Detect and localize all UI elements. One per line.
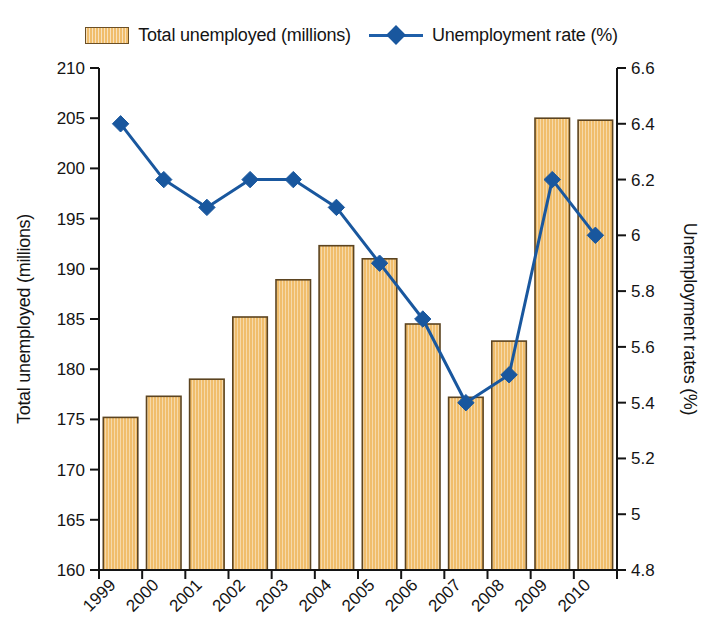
right-tick-label-5.4: 5.4	[631, 394, 655, 413]
left-tick-label-185: 185	[57, 310, 85, 329]
left-tick-label-195: 195	[57, 210, 85, 229]
bar-2003	[276, 280, 311, 570]
right-tick-label-6: 6	[631, 226, 640, 245]
x-tick-label-2005: 2005	[338, 575, 378, 615]
right-tick-label-6.6: 6.6	[631, 59, 655, 78]
left-tick-label-180: 180	[57, 360, 85, 379]
right-tick-label-5.6: 5.6	[631, 338, 655, 357]
right-axis-title: Unemployment rates (%)	[680, 223, 700, 415]
x-tick-label-2009: 2009	[511, 575, 551, 615]
x-tick-label-2000: 2000	[122, 575, 162, 615]
bar-2006	[406, 324, 441, 570]
bar-2002	[233, 317, 267, 570]
bar-2001	[190, 379, 225, 570]
left-tick-label-210: 210	[57, 59, 85, 78]
x-tick-label-2001: 2001	[166, 575, 206, 615]
chart-plot-area: 1601651701751801851901952002052104.855.2…	[0, 0, 703, 625]
x-tick-label-2002: 2002	[209, 575, 249, 615]
left-tick-label-200: 200	[57, 159, 85, 178]
left-tick-label-165: 165	[57, 511, 85, 530]
x-tick-label-2004: 2004	[295, 575, 335, 615]
left-tick-label-160: 160	[57, 561, 85, 580]
x-tick-label-2007: 2007	[425, 575, 465, 615]
x-tick-label-1999: 1999	[79, 575, 119, 615]
bar-series	[103, 118, 612, 570]
x-axis-ticks: 1999200020012002200320042005200620072008…	[79, 570, 617, 616]
bar-2000	[147, 396, 182, 570]
x-tick-label-2010: 2010	[554, 575, 594, 615]
right-tick-label-5.8: 5.8	[631, 282, 655, 301]
line-marker-2003	[285, 171, 301, 187]
right-tick-label-6.4: 6.4	[631, 115, 655, 134]
bar-2005	[362, 259, 397, 570]
right-tick-label-5: 5	[631, 505, 640, 524]
left-tick-label-205: 205	[57, 109, 85, 128]
right-axis-ticks: 4.855.25.45.65.866.26.46.6	[617, 59, 655, 580]
x-tick-label-2006: 2006	[381, 575, 421, 615]
bar-2010	[578, 120, 613, 570]
line-marker-2001	[199, 199, 215, 215]
left-axis-title: Total unemployed (millions)	[14, 214, 34, 424]
right-tick-label-6.2: 6.2	[631, 171, 655, 190]
bar-1999	[103, 417, 138, 570]
x-tick-label-2003: 2003	[252, 575, 292, 615]
left-tick-label-175: 175	[57, 410, 85, 429]
chart-container: Total unemployed (millions) Unemployment…	[0, 0, 703, 625]
x-tick-label-2008: 2008	[468, 575, 508, 615]
line-marker-2002	[242, 171, 258, 187]
right-tick-label-5.2: 5.2	[631, 449, 655, 468]
bar-2007	[449, 397, 484, 570]
left-axis-ticks: 160165170175180185190195200205210	[57, 59, 99, 580]
line-series	[112, 116, 603, 411]
left-tick-label-190: 190	[57, 260, 85, 279]
left-tick-label-170: 170	[57, 461, 85, 480]
right-tick-label-4.8: 4.8	[631, 561, 655, 580]
bar-2004	[319, 246, 354, 570]
